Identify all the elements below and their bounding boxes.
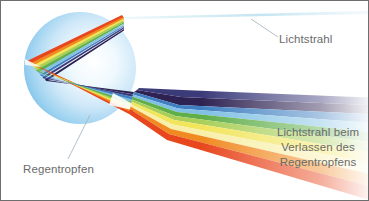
incoming-white-ray [125, 11, 369, 19]
label-exit-ray-line-3: Regentropfens [269, 155, 367, 170]
label-exit-ray-line-1: Lichtstrahl beim [269, 125, 367, 140]
label-exit-ray-line-2: Verlassen des [269, 140, 367, 155]
rainbow-refraction-figure: Lichtstrahl Regentropfen Lichtstrahl bei… [0, 0, 369, 201]
label-raindrop: Regentropfen [23, 162, 94, 177]
leader-line-incoming-ray [251, 19, 278, 37]
label-exit-ray: Lichtstrahl beim Verlassen des Regentrop… [269, 125, 367, 170]
label-incoming-ray: Lichtstrahl [279, 32, 333, 47]
